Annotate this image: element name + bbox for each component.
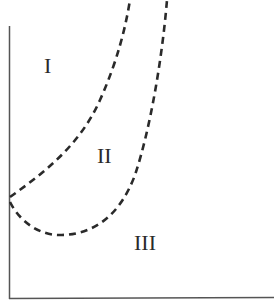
- outer-boundary-curve: [10, 0, 130, 197]
- region-label-iii: III: [134, 232, 156, 254]
- region-label-i: I: [44, 55, 51, 77]
- x-axis: [9, 298, 274, 299]
- region-label-ii: II: [97, 145, 112, 167]
- diagram-canvas: [0, 0, 274, 303]
- inner-boundary-curve: [10, 0, 167, 235]
